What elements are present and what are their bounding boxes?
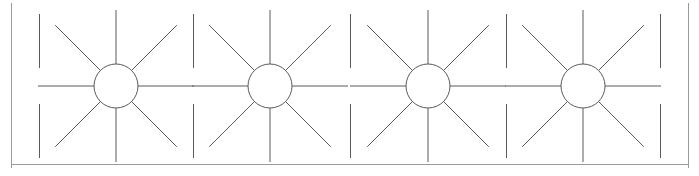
pattern-canvas bbox=[0, 0, 699, 176]
starburst-pattern-svg bbox=[0, 0, 699, 176]
background-rect bbox=[0, 0, 699, 176]
